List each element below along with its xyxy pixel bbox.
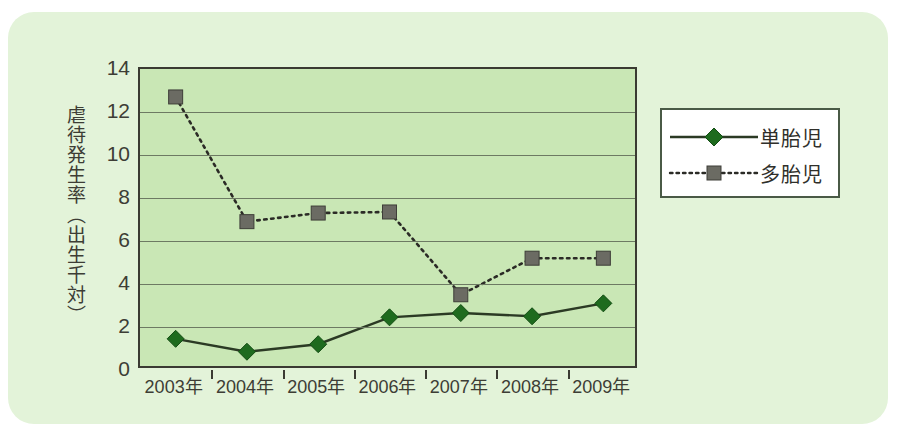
x-tick-label: 2007年: [423, 378, 494, 404]
data-point-marker: [238, 343, 255, 360]
x-tick-label: 2005年: [281, 378, 352, 404]
data-point-marker: [167, 330, 184, 347]
y-tick-label: 2: [86, 315, 130, 336]
gridline: [140, 198, 635, 199]
legend-sample-line-diamond-icon: [668, 123, 760, 151]
y-tick-label: 4: [86, 272, 130, 293]
data-point-marker: [525, 251, 539, 265]
x-tick-label: 2006年: [352, 378, 423, 404]
y-tick-label: 8: [86, 186, 130, 207]
legend-label-multiple: 多胎児: [760, 159, 823, 188]
y-tick-label: 0: [86, 358, 130, 379]
data-point-marker: [381, 309, 398, 326]
data-point-marker: [240, 215, 254, 229]
gridline: [140, 112, 635, 113]
data-point-marker: [596, 251, 610, 265]
x-tick-label: 2008年: [494, 378, 565, 404]
y-tick-label: 10: [86, 143, 130, 164]
y-tick-label: 6: [86, 229, 130, 250]
y-tick-label: 14: [86, 57, 130, 78]
gridline: [140, 241, 635, 242]
data-point-marker: [169, 90, 183, 104]
gridline: [140, 327, 635, 328]
legend-item-multiple: 多胎児: [662, 156, 838, 190]
legend-label-single: 単胎児: [760, 123, 823, 152]
x-axis-labels: 2003年2004年2005年2006年2007年2008年2009年: [138, 378, 637, 404]
data-point-marker: [595, 295, 612, 312]
gridline: [140, 284, 635, 285]
chart-legend: 単胎児 多胎児: [660, 108, 840, 198]
y-axis-ticks: 02468101214: [78, 67, 130, 368]
data-point-marker: [454, 288, 468, 302]
data-point-marker: [310, 336, 327, 353]
data-point-marker: [452, 305, 469, 322]
data-point-marker: [383, 205, 397, 219]
data-point-marker: [524, 308, 541, 325]
gridline: [140, 155, 635, 156]
plot-area: [138, 67, 637, 368]
y-tick-label: 12: [86, 100, 130, 121]
x-tick-label: 2009年: [566, 378, 637, 404]
data-point-marker: [311, 206, 325, 220]
legend-sample-dotted-square-icon: [668, 159, 760, 187]
legend-item-single: 単胎児: [662, 120, 838, 154]
series-overlay: [140, 69, 639, 370]
x-tick-label: 2004年: [209, 378, 280, 404]
x-tick-label: 2003年: [138, 378, 209, 404]
chart-figure: 虐待発生率（出生千対） 02468101214 2003年2004年2005年2…: [0, 0, 904, 435]
